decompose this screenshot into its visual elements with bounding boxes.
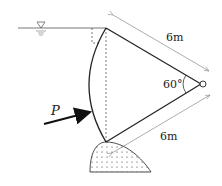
radial-gate-diagram: 60° 6m 6m P: [0, 0, 222, 186]
diagram-canvas: 60° 6m 6m P: [0, 0, 222, 186]
lower-length-label: 6m: [160, 130, 178, 143]
water-level-icon: [37, 22, 45, 28]
pivot-icon: [200, 81, 206, 87]
force-label: P: [50, 103, 60, 118]
dashed-guides: [92, 28, 106, 142]
ground-support: [90, 142, 151, 172]
water-surface: [18, 22, 106, 35]
angle-label: 60°: [163, 78, 183, 91]
angle-arc: [183, 75, 186, 93]
upper-length-label: 6m: [166, 31, 184, 44]
